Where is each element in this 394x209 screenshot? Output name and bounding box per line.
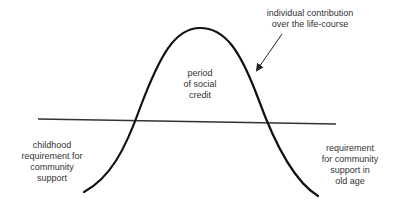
- contribution-arrow: [257, 34, 282, 70]
- life-course-diagram: period of social credit individual contr…: [0, 0, 394, 209]
- old-age-label: requirement for community support in old…: [313, 143, 387, 187]
- contribution-label: individual contribution over the life-co…: [255, 8, 365, 30]
- social-credit-label: period of social credit: [165, 68, 235, 101]
- contribution-curve: [84, 28, 318, 196]
- childhood-label: childhood requirement for community supp…: [10, 140, 94, 184]
- baseline: [38, 119, 336, 124]
